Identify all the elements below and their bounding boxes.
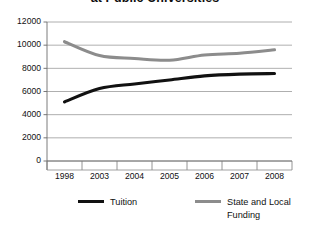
x-axis-tick-label: 1998 <box>55 171 74 181</box>
legend-label-tuition: Tuition <box>110 196 137 209</box>
y-axis-tick-label: 2000 <box>22 132 41 142</box>
x-axis-tick-label: 2005 <box>160 171 179 181</box>
y-axis-tick-label: 10000 <box>17 39 41 49</box>
x-axis-tick-label: 2004 <box>125 171 144 181</box>
series-line <box>65 42 275 61</box>
legend-swatch-tuition <box>78 200 104 203</box>
y-axis-tick-label: 12000 <box>17 16 41 26</box>
legend-item-state-local-funding: State and Local Funding <box>195 196 310 221</box>
series-line <box>65 74 275 102</box>
chart-legend: Tuition State and Local Funding <box>0 192 310 236</box>
x-axis-tick-label: 2008 <box>265 171 284 181</box>
legend-item-tuition: Tuition <box>78 196 137 209</box>
legend-swatch-state-local-funding <box>195 200 221 203</box>
x-axis-tick-label: 2006 <box>195 171 214 181</box>
y-axis-tick-label: 0 <box>36 155 41 165</box>
legend-label-state-local-funding: State and Local Funding <box>227 196 310 221</box>
y-axis-tick-label: 6000 <box>22 86 41 96</box>
chart-container: at Public Universities 02000400060008000… <box>0 0 310 236</box>
y-axis-tick-label: 8000 <box>22 63 41 73</box>
x-axis-tick-label: 2003 <box>90 171 109 181</box>
x-axis-tick-label: 2007 <box>230 171 249 181</box>
y-axis-tick-label: 4000 <box>22 109 41 119</box>
